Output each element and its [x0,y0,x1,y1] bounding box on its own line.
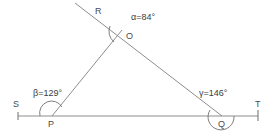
angle-label-gamma: γ=146° [199,89,227,98]
angle-label-beta: β=129° [33,89,62,98]
vertex-label-P: P [48,120,54,129]
vertex-label-S: S [13,100,19,109]
geometry-diagram: R O S P Q T α=84° β=129° γ=146° [0,0,275,135]
angle-label-alpha: α=84° [131,13,155,22]
vertex-label-T: T [255,100,261,109]
vertex-label-Q: Q [218,120,225,129]
segment-PO [52,30,122,116]
angle-arc-alpha-at-O [109,26,114,42]
vertex-label-O: O [126,32,133,41]
vertex-label-R: R [95,7,102,16]
